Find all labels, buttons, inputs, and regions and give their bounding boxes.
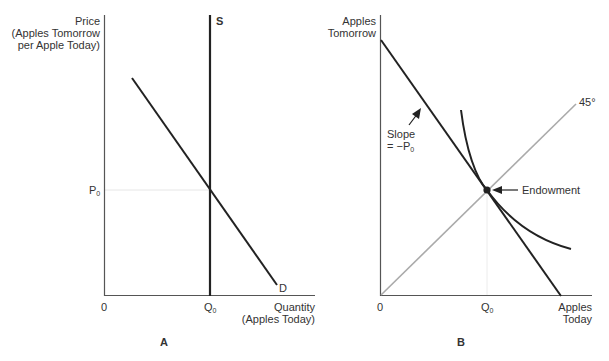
quantity-tick-main: Q [481, 301, 490, 313]
indifference-curve [461, 110, 571, 249]
panel-b-y-axis-label: Apples Tomorrow [300, 15, 376, 39]
price-tick-label: P0 [89, 184, 100, 200]
demand-curve [132, 78, 277, 285]
slope-label-formula: = −P [387, 140, 410, 152]
panel-b-label: B [457, 336, 465, 348]
x-axis-label-line2: Today [532, 313, 592, 325]
y-axis-label-line1: Price [0, 15, 100, 27]
panel-b-origin-label: 0 [377, 301, 383, 313]
slope-label-line2: = −P0 [387, 140, 415, 156]
x-axis-label-line2: (Apples Today) [215, 313, 315, 325]
quantity-tick-main: Q [204, 301, 213, 313]
x-axis-label-line1: Quantity [215, 301, 315, 313]
budget-line [381, 40, 561, 296]
panel-a-label: A [160, 336, 168, 348]
panel-b-x-axis-label: Apples Today [532, 301, 592, 325]
diagonal-label: 45° [579, 96, 596, 108]
panel-b-quantity-tick-label: Q0 [481, 301, 493, 317]
y-axis-label-line1: Apples [300, 15, 376, 27]
endowment-point [483, 186, 490, 193]
panel-a-origin-label: 0 [101, 301, 107, 313]
supply-label: S [216, 15, 223, 27]
endowment-arrow [492, 186, 518, 194]
y-axis-label-line2: Tomorrow [300, 27, 376, 39]
x-axis-label-line1: Apples [532, 301, 592, 313]
slope-arrow [409, 108, 421, 125]
y-axis-label-line2: (Apples Tomorrow [0, 27, 100, 39]
slope-label-line1: Slope [387, 128, 415, 140]
endowment-label: Endowment [522, 184, 580, 196]
slope-label: Slope = −P0 [387, 128, 415, 156]
panel-a-y-axis-label: Price (Apples Tomorrow per Apple Today) [0, 15, 100, 51]
quantity-tick-sub: 0 [490, 307, 494, 314]
price-tick-sub: 0 [96, 190, 100, 197]
y-axis-label-line3: per Apple Today) [0, 39, 100, 51]
slope-label-sub: 0 [410, 146, 414, 153]
demand-label: D [279, 282, 287, 294]
panel-a-x-axis-label: Quantity (Apples Today) [215, 301, 315, 325]
